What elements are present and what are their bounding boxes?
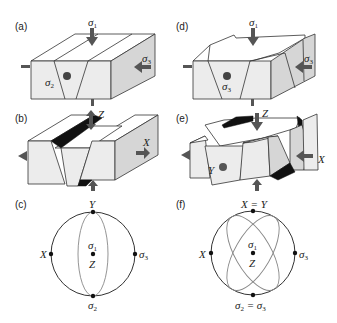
label-sigma3: σ3	[299, 248, 308, 262]
block-e-right-front	[303, 114, 318, 170]
label-z: Z	[249, 257, 256, 269]
label-sigma1: σ1	[88, 239, 97, 253]
label-sigma2-eq-sigma3: σ2 = σ3	[235, 299, 266, 313]
figure-canvas: (a) σ1 σ3 σ2 (b)	[0, 0, 337, 323]
panel-f-label: (f)	[176, 199, 185, 210]
label-z: Z	[89, 258, 96, 270]
panel-c: (c) Y X σ3 σ1 Z σ2	[15, 198, 148, 313]
panel-b-label: (b)	[15, 113, 27, 124]
panel-f: (f) X = Y X σ3 σ1 Z σ2 = σ3	[176, 198, 308, 313]
label-sigma3: σ3	[139, 248, 148, 262]
label-sigma1: σ1	[248, 238, 257, 252]
sigma1-label: σ1	[88, 16, 97, 30]
point-y	[91, 210, 95, 214]
left-arrow-icon	[18, 151, 27, 161]
left-arrow-icon	[181, 150, 190, 160]
point-sigma3	[293, 251, 297, 255]
left-stub-icon	[183, 65, 192, 68]
point-sigma2-eq-sigma3	[251, 293, 255, 297]
block-a-front	[31, 61, 111, 99]
panel-e-label: (e)	[176, 113, 188, 124]
panel-d-label: (d)	[176, 21, 188, 32]
block-d-front	[193, 61, 271, 99]
panel-d: (d) σ1 σ3 σ3	[176, 16, 315, 106]
label-x: X	[39, 248, 48, 260]
bottom-stub-icon	[251, 99, 254, 106]
label-x: X	[198, 248, 207, 260]
x-label: X	[317, 153, 326, 165]
left-stub-icon	[21, 65, 30, 68]
bottom-arrow-icon	[252, 179, 262, 191]
label-x-eq-y: X = Y	[240, 198, 269, 210]
point-sigma2	[91, 294, 95, 298]
bottom-stub-icon	[91, 99, 94, 106]
sigma1-label: σ1	[249, 16, 258, 30]
label-y: Y	[89, 198, 97, 210]
block-e-center-front	[240, 137, 270, 180]
panel-a: (a) σ1 σ3 σ2	[15, 16, 155, 106]
x-label: X	[142, 136, 151, 148]
z-label: Z	[262, 107, 269, 119]
sigma2-dot-icon	[63, 72, 71, 80]
panel-a-label: (a)	[15, 21, 27, 32]
point-x	[209, 251, 213, 255]
panel-e: (e) Z X Y	[176, 107, 326, 191]
panel-c-label: (c)	[15, 199, 27, 210]
panel-b: (b) Z X	[15, 108, 158, 191]
point-sigma3	[133, 252, 137, 256]
y-dot-icon	[219, 163, 227, 171]
label-sigma2: σ2	[88, 299, 97, 313]
sigma3-dot-icon	[223, 72, 231, 80]
z-label: Z	[98, 108, 105, 120]
point-x	[49, 252, 53, 256]
